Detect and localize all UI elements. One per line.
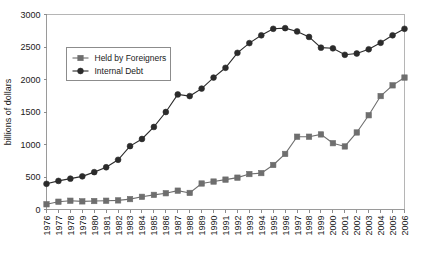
- data-point-marker: [402, 75, 407, 80]
- data-point-marker: [258, 32, 264, 38]
- x-axis-ticks: 1976197719781979198019811982198319841985…: [42, 210, 410, 236]
- data-point-marker: [67, 176, 73, 182]
- data-point-marker: [56, 199, 61, 204]
- data-point-marker: [378, 93, 383, 98]
- x-tick-label: 1991: [221, 216, 231, 236]
- x-tick-label: 1996: [281, 216, 291, 236]
- x-tick-label: 1990: [209, 216, 219, 236]
- x-tick-label: 1999: [316, 216, 326, 236]
- y-axis-ticks: 050010001500200025003000: [20, 10, 46, 215]
- data-point-marker: [44, 202, 49, 207]
- x-tick-label: 1977: [54, 216, 64, 236]
- data-point-marker: [139, 194, 144, 199]
- data-point-marker: [211, 75, 217, 81]
- data-point-marker: [282, 25, 288, 31]
- data-point-marker: [402, 26, 408, 32]
- y-tick-label: 1000: [20, 140, 40, 150]
- data-point-marker: [175, 188, 180, 193]
- data-point-marker: [199, 86, 205, 92]
- data-point-marker: [318, 132, 323, 137]
- x-tick-label: 1982: [114, 216, 124, 236]
- y-tick-label: 2000: [20, 75, 40, 85]
- x-tick-label: 1998: [304, 216, 314, 236]
- data-point-marker: [127, 143, 133, 149]
- data-point-marker: [378, 40, 384, 46]
- data-point-marker: [80, 199, 85, 204]
- y-axis-title-text: billions of dollars: [3, 78, 13, 145]
- data-point-marker: [139, 136, 145, 142]
- data-point-marker: [103, 198, 108, 203]
- y-tick-label: 500: [25, 172, 40, 182]
- x-tick-label: 1978: [66, 216, 76, 236]
- legend-marker-sample: [78, 68, 84, 74]
- data-point-marker: [56, 178, 62, 184]
- legend-entry-label: Held by Foreigners: [95, 53, 167, 63]
- line-chart: 050010001500200025003000 billions of dol…: [0, 0, 428, 267]
- data-point-marker: [354, 51, 360, 57]
- x-tick-label: 1980: [90, 216, 100, 236]
- x-tick-label: 1976: [42, 216, 52, 236]
- data-point-marker: [175, 92, 181, 98]
- legend-marker-sample: [78, 55, 83, 60]
- data-point-marker: [306, 34, 312, 40]
- data-point-marker: [366, 46, 372, 52]
- data-point-marker: [342, 52, 348, 58]
- x-tick-label: 2004: [376, 216, 386, 236]
- x-tick-label: 1995: [269, 216, 279, 236]
- data-point-marker: [79, 173, 85, 179]
- data-point-marker: [187, 190, 192, 195]
- x-tick-label: 1983: [125, 216, 135, 236]
- x-tick-label: 1984: [137, 216, 147, 236]
- data-point-marker: [103, 164, 109, 170]
- data-point-marker: [235, 175, 240, 180]
- data-point-marker: [330, 141, 335, 146]
- data-point-marker: [223, 65, 229, 71]
- chart-container: 050010001500200025003000 billions of dol…: [0, 0, 428, 267]
- series-1: [44, 75, 407, 207]
- data-point-marker: [91, 169, 97, 175]
- data-point-marker: [270, 26, 276, 32]
- x-tick-label: 2002: [352, 216, 362, 236]
- x-tick-label: 1994: [257, 216, 267, 236]
- data-point-marker: [390, 83, 395, 88]
- x-tick-label: 1981: [102, 216, 112, 236]
- x-tick-label: 1988: [185, 216, 195, 236]
- y-tick-label: 1500: [20, 107, 40, 117]
- x-tick-label: 2003: [364, 216, 374, 236]
- x-tick-label: 1989: [197, 216, 207, 236]
- x-tick-label: 1987: [173, 216, 183, 236]
- x-tick-label: 1997: [293, 216, 303, 236]
- x-tick-label: 2005: [388, 216, 398, 236]
- data-point-marker: [163, 109, 169, 115]
- x-tick-label: 1985: [149, 216, 159, 236]
- data-point-marker: [271, 162, 276, 167]
- data-point-marker: [115, 198, 120, 203]
- legend-entry-label: Internal Debt: [95, 66, 144, 76]
- chart-legend: Held by ForeignersInternal Debt: [67, 48, 171, 81]
- y-axis-title: billions of dollars: [3, 78, 13, 145]
- y-tick-label: 3000: [20, 10, 40, 20]
- data-point-marker: [342, 144, 347, 149]
- y-tick-label: 2500: [20, 42, 40, 52]
- series-line-path: [47, 78, 405, 205]
- data-point-marker: [247, 171, 252, 176]
- x-tick-label: 2001: [340, 216, 350, 236]
- data-point-marker: [199, 181, 204, 186]
- data-point-marker: [92, 198, 97, 203]
- data-point-marker: [294, 29, 300, 35]
- data-point-marker: [151, 124, 157, 130]
- x-tick-label: 1986: [161, 216, 171, 236]
- data-point-marker: [318, 45, 324, 51]
- data-point-marker: [44, 181, 50, 187]
- data-point-marker: [68, 198, 73, 203]
- data-point-marker: [306, 134, 311, 139]
- data-point-marker: [187, 93, 193, 99]
- data-point-marker: [366, 113, 371, 118]
- data-point-marker: [259, 170, 264, 175]
- y-tick-label: 0: [35, 205, 40, 215]
- data-point-marker: [235, 50, 241, 56]
- data-point-marker: [115, 157, 121, 163]
- data-point-marker: [163, 191, 168, 196]
- data-point-marker: [211, 179, 216, 184]
- data-point-marker: [330, 45, 336, 51]
